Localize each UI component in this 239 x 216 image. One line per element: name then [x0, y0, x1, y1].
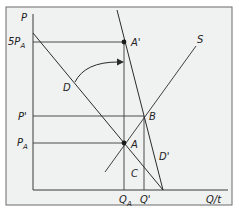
demand-d-label: D — [63, 82, 71, 93]
point-a-label: A — [130, 139, 138, 150]
point-a-prime-dot — [122, 40, 127, 45]
y-axis-label: P — [21, 12, 28, 23]
point-a-prime-label: A' — [130, 37, 141, 48]
p-prime-label: P' — [18, 111, 27, 122]
point-b-label: B — [149, 111, 156, 122]
point-c-label: C — [131, 168, 138, 179]
point-a-dot — [122, 141, 127, 146]
x-axis-label: Q/t — [206, 194, 222, 205]
demand-d-prime-label: D' — [159, 151, 169, 162]
q-prime-label: Q' — [140, 194, 151, 205]
supply-s-label: S — [197, 34, 204, 45]
economics-diagram: P Q/t 5PA P' PA QA Q' D D' S A' A B C — [0, 0, 239, 216]
